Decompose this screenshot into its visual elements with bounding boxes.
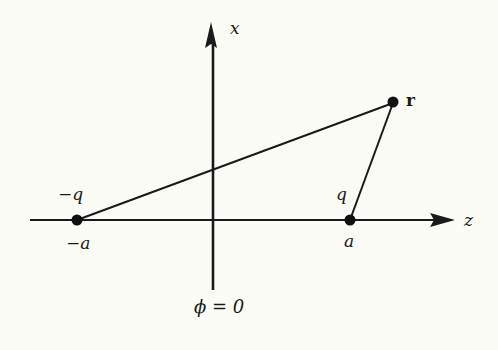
background <box>0 0 498 350</box>
dipole-diagram: x z r −q q −a a ϕ = 0 <box>0 0 498 350</box>
field-point-r <box>388 97 399 108</box>
positive-charge-label: q <box>336 184 347 204</box>
field-point-label: r <box>406 90 416 110</box>
negative-position-label: −a <box>66 233 90 253</box>
negative-charge-point <box>72 215 83 226</box>
phi-zero-label: ϕ = 0 <box>194 296 244 317</box>
negative-charge-label: −q <box>58 184 83 204</box>
positive-charge-point <box>345 215 356 226</box>
x-axis-label: x <box>230 18 240 38</box>
positive-position-label: a <box>344 231 354 251</box>
z-axis-label: z <box>463 210 474 230</box>
